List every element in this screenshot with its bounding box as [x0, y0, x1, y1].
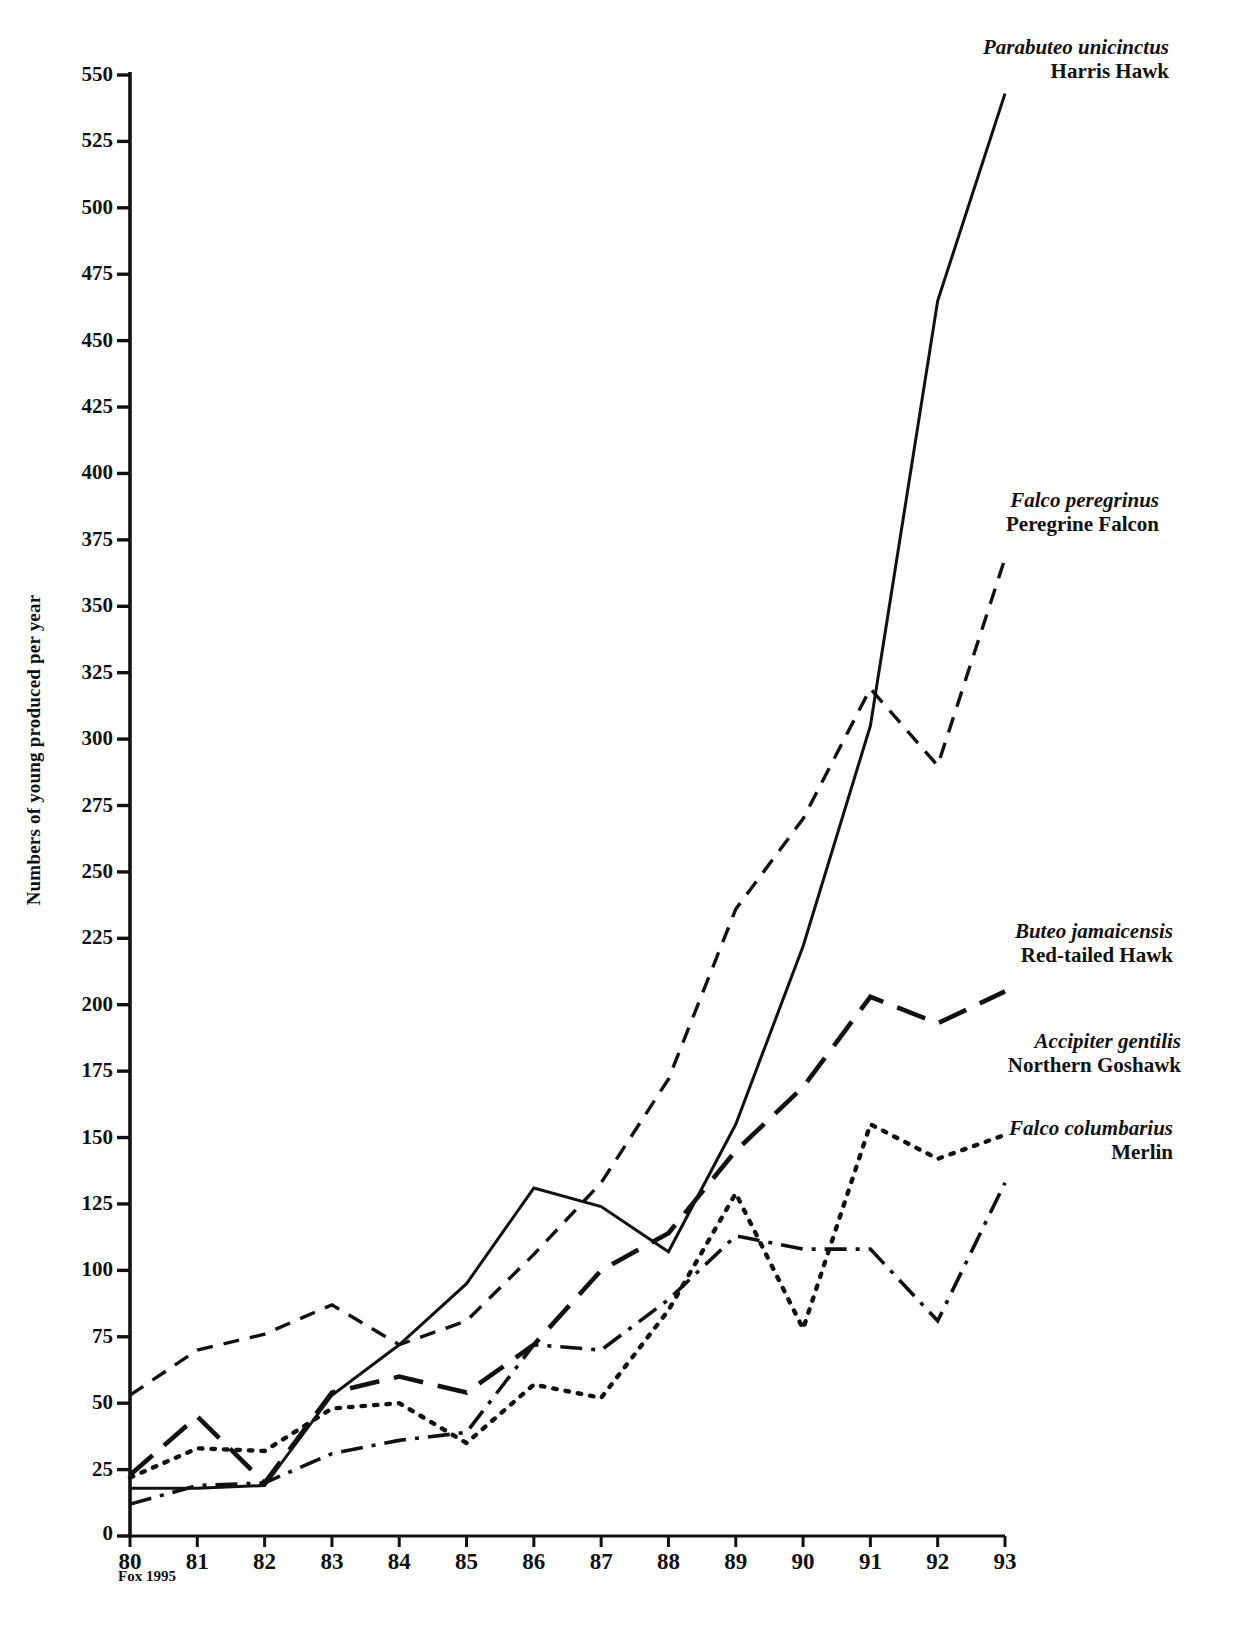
- y-tick-label: 400: [43, 462, 113, 483]
- x-tick-label: 83: [302, 1550, 362, 1573]
- line-chart-canvas: [0, 0, 1251, 1639]
- y-tick-label: 425: [43, 396, 113, 417]
- y-tick-label: 350: [43, 595, 113, 616]
- series-common-name-red-tailed-hawk: Red-tailed Hawk: [1015, 944, 1173, 968]
- series-common-name-northern-goshawk: Northern Goshawk: [1008, 1054, 1181, 1078]
- y-tick-label: 250: [43, 861, 113, 882]
- y-tick-label: 450: [43, 330, 113, 351]
- series-line-northern-goshawk: [130, 1124, 1005, 1477]
- y-tick-label: 500: [43, 197, 113, 218]
- x-tick-label: 85: [437, 1550, 497, 1573]
- y-axis-title: Numbers of young produced per year: [14, 520, 54, 980]
- x-tick-label: 86: [504, 1550, 564, 1573]
- series-line-red-tailed-hawk: [130, 991, 1005, 1482]
- y-tick-label: 550: [43, 64, 113, 85]
- chart-figure: Numbers of young produced per year 02550…: [0, 0, 1251, 1639]
- series-label-northern-goshawk: Accipiter gentilis Northern Goshawk: [1008, 1030, 1181, 1077]
- series-common-name-harris-hawk: Harris Hawk: [983, 60, 1169, 84]
- y-tick-label: 150: [43, 1127, 113, 1148]
- y-tick-label: 325: [43, 662, 113, 683]
- series-common-name-peregrine-falcon: Peregrine Falcon: [1006, 513, 1159, 537]
- series-label-merlin: Falco columbarius Merlin: [1009, 1117, 1173, 1164]
- series-scientific-name-harris-hawk: Parabuteo unicinctus: [983, 36, 1169, 60]
- x-tick-label: 84: [369, 1550, 429, 1573]
- y-tick-label: 175: [43, 1060, 113, 1081]
- y-tick-label: 525: [43, 130, 113, 151]
- x-tick-label: 91: [840, 1550, 900, 1573]
- series-label-harris-hawk: Parabuteo unicinctus Harris Hawk: [983, 36, 1169, 83]
- x-tick-label: 89: [706, 1550, 766, 1573]
- x-tick-label: 93: [975, 1550, 1035, 1573]
- series-line-merlin: [130, 1183, 1005, 1504]
- y-tick-label: 75: [43, 1326, 113, 1347]
- series-label-red-tailed-hawk: Buteo jamaicensis Red-tailed Hawk: [1015, 920, 1173, 967]
- y-tick-label: 275: [43, 795, 113, 816]
- y-tick-label: 200: [43, 994, 113, 1015]
- series-line-harris-hawk: [130, 94, 1005, 1489]
- series-label-peregrine-falcon: Falco peregrinus Peregrine Falcon: [1006, 489, 1159, 536]
- y-tick-label: 25: [43, 1459, 113, 1480]
- y-tick-label: 50: [43, 1392, 113, 1413]
- series-line-peregrine-falcon: [130, 558, 1005, 1395]
- axis-lines: [130, 72, 1005, 1536]
- y-tick-label: 125: [43, 1193, 113, 1214]
- y-tick-label: 0: [43, 1523, 113, 1544]
- series-scientific-name-northern-goshawk: Accipiter gentilis: [1008, 1030, 1181, 1054]
- y-tick-label: 475: [43, 263, 113, 284]
- x-tick-label: 92: [908, 1550, 968, 1573]
- x-tick-label: 82: [235, 1550, 295, 1573]
- series-paths: [130, 94, 1005, 1505]
- series-common-name-merlin: Merlin: [1009, 1141, 1173, 1165]
- x-tick-marks: [130, 1536, 1005, 1547]
- series-scientific-name-red-tailed-hawk: Buteo jamaicensis: [1015, 920, 1173, 944]
- y-axis-title-text: Numbers of young produced per year: [23, 595, 45, 906]
- y-tick-label: 225: [43, 927, 113, 948]
- x-tick-label: 87: [571, 1550, 631, 1573]
- x-tick-label: 88: [638, 1550, 698, 1573]
- y-tick-marks: [117, 75, 130, 1536]
- source-note: Fox 1995: [118, 1568, 176, 1585]
- y-tick-label: 100: [43, 1259, 113, 1280]
- x-tick-label: 81: [167, 1550, 227, 1573]
- series-scientific-name-merlin: Falco columbarius: [1009, 1117, 1173, 1141]
- series-scientific-name-peregrine-falcon: Falco peregrinus: [1006, 489, 1159, 513]
- y-tick-label: 375: [43, 529, 113, 550]
- x-tick-label: 90: [773, 1550, 833, 1573]
- y-tick-label: 300: [43, 728, 113, 749]
